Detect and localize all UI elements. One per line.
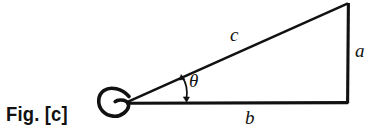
- side-label-a: a: [355, 41, 365, 60]
- vertex-loop-scribble: [99, 88, 129, 116]
- figure-container: c a b θ Fig. [c]: [0, 0, 378, 140]
- triangle-vertical-side-a: [348, 3, 349, 103]
- angle-label-theta: θ: [189, 71, 198, 90]
- side-label-b: b: [245, 108, 255, 127]
- figure-caption: Fig. [c]: [6, 104, 68, 124]
- side-label-c: c: [230, 25, 238, 44]
- angle-arc-arrowhead-lower: [183, 97, 189, 102]
- angle-arc-theta: [182, 77, 186, 98]
- triangle-base-side-b: [127, 103, 349, 104]
- triangle-hypotenuse-side-c: [127, 3, 349, 102]
